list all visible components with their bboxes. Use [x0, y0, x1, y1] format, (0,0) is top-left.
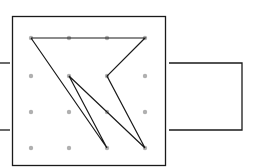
left-lead-wires	[0, 63, 10, 130]
right-loop-wire	[169, 63, 242, 130]
grid-dot-r1-c3	[143, 74, 147, 78]
polygon-path	[31, 38, 145, 148]
grid-dot-r2-c1	[67, 110, 71, 114]
grid-dot-r3-c1	[67, 146, 71, 150]
dot-grid-diagram	[0, 0, 254, 168]
grid-dot-r2-c0	[29, 110, 33, 114]
grid-dot-r2-c3	[143, 110, 147, 114]
grid-dot-r3-c0	[29, 146, 33, 150]
grid-dot-r1-c0	[29, 74, 33, 78]
